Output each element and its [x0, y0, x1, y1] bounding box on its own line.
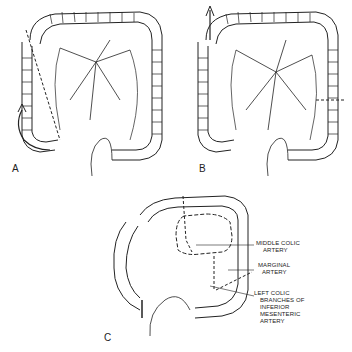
- panel-label-b: B: [199, 163, 206, 174]
- callout-line: MARGINAL: [258, 262, 290, 269]
- callout-line: MIDDLE COLIC: [256, 240, 300, 247]
- panel-c-colon: [114, 196, 254, 336]
- callout-marginal-artery: MARGINAL ARTERY: [258, 262, 290, 276]
- callout-line: LEFT COLIC: [254, 290, 304, 297]
- panel-label-a: A: [12, 163, 19, 174]
- callout-line: ARTERY: [258, 269, 290, 276]
- callout-line: INFERIOR: [254, 304, 304, 311]
- panel-a-colon: [18, 12, 162, 176]
- panel-label-c: C: [104, 332, 111, 343]
- callout-left-colic-branches: LEFT COLIC BRANCHES OF INFERIOR MESENTER…: [254, 290, 304, 325]
- callout-middle-colic-artery: MIDDLE COLIC ARTERY: [256, 240, 300, 254]
- callout-line: BRANCHES OF: [254, 297, 304, 304]
- callout-line: ARTERY: [254, 318, 304, 325]
- callout-line: MESENTERIC: [254, 311, 304, 318]
- callout-line: ARTERY: [256, 247, 300, 254]
- panel-b-colon: [198, 6, 346, 176]
